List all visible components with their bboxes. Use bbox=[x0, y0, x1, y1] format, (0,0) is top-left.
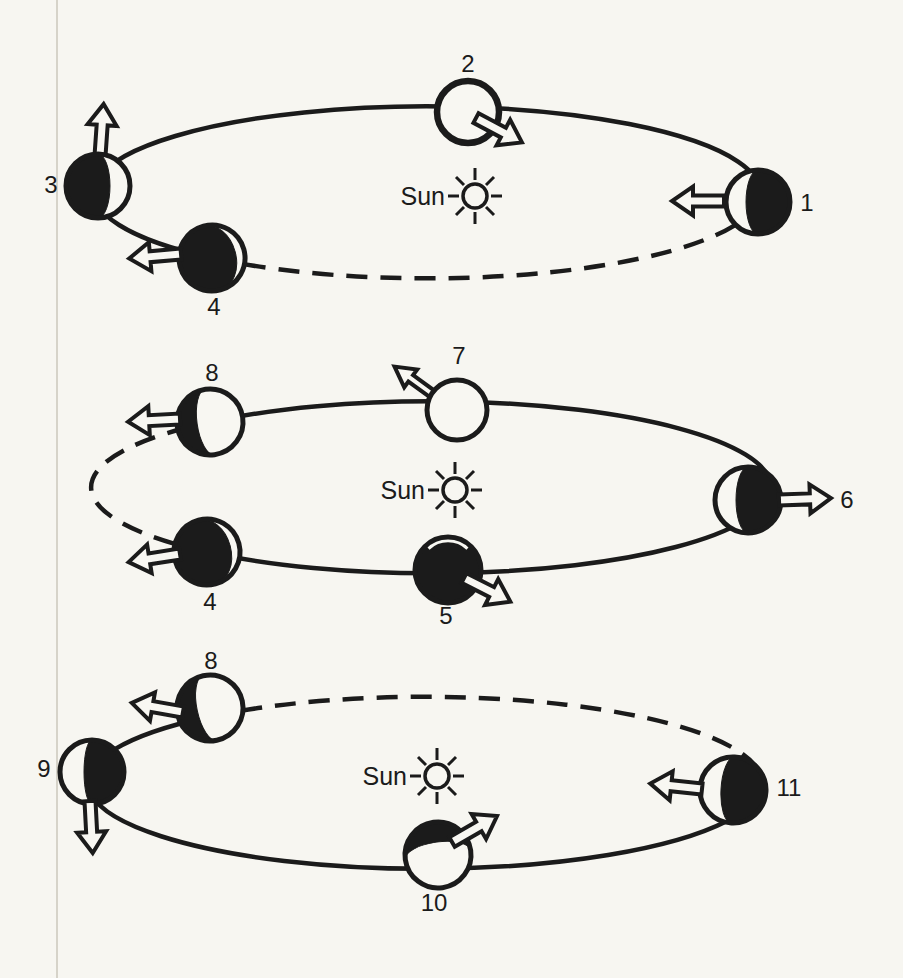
position-label-7: 7 bbox=[452, 342, 465, 369]
textbook-diagram-page: Sun 1 2 3 4 bbox=[0, 0, 903, 978]
position-label-6: 6 bbox=[840, 486, 853, 513]
planet-position-5 bbox=[415, 537, 481, 603]
planet-position-9 bbox=[60, 740, 124, 804]
position-label-8: 8 bbox=[204, 647, 217, 674]
sun-label: Sun bbox=[363, 762, 407, 790]
position-label-5: 5 bbox=[439, 602, 452, 629]
sun-label: Sun bbox=[401, 182, 445, 210]
planet-position-6 bbox=[715, 467, 781, 533]
sun-label: Sun bbox=[381, 476, 425, 504]
position-label-4: 4 bbox=[207, 293, 220, 320]
planet-position-1 bbox=[726, 170, 790, 234]
planet-position-3 bbox=[66, 154, 130, 218]
position-label-9: 9 bbox=[37, 755, 50, 782]
position-label-11: 11 bbox=[777, 774, 802, 801]
position-label-2: 2 bbox=[461, 50, 474, 77]
position-label-4: 4 bbox=[203, 588, 216, 615]
position-label-10: 10 bbox=[421, 889, 448, 916]
position-label-8: 8 bbox=[205, 359, 218, 386]
position-label-1: 1 bbox=[800, 189, 813, 216]
planet-position-7 bbox=[427, 380, 487, 440]
position-label-3: 3 bbox=[44, 171, 57, 198]
planet-position-11 bbox=[698, 755, 767, 824]
orbit-phases-diagram: Sun 1 2 3 4 bbox=[0, 0, 903, 978]
